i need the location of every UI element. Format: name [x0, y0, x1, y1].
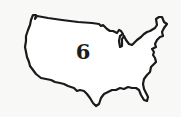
map-number-label: 6 [74, 40, 92, 64]
us-map-card: 6 [0, 0, 181, 117]
